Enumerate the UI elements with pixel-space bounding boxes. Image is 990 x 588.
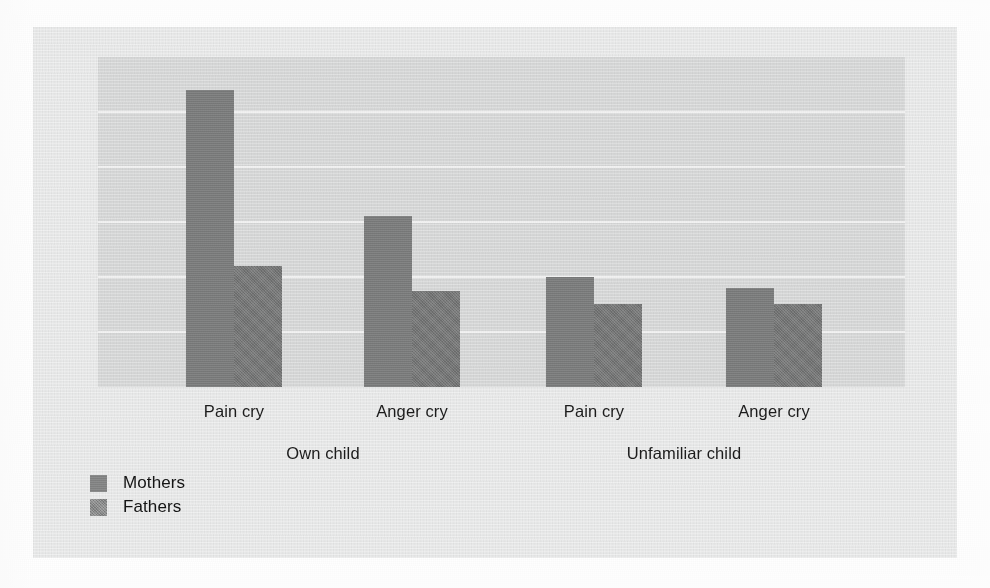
bar-fathers-2: [412, 291, 460, 387]
legend-label-mothers: Mothers: [123, 473, 185, 493]
bar-mothers-4: [726, 288, 774, 387]
legend-item-mothers[interactable]: Mothers: [90, 471, 185, 495]
scanned-page: Pain cryAnger cryPain cryAnger cry Own c…: [0, 0, 990, 588]
legend-label-fathers: Fathers: [123, 497, 181, 517]
group-label-2: Unfamiliar child: [574, 444, 794, 463]
plot-area: [98, 57, 905, 387]
bar-fathers-3: [594, 304, 642, 387]
legend-swatch-fathers-icon: [90, 499, 107, 516]
category-label-2: Anger cry: [322, 402, 502, 421]
category-label-1: Pain cry: [144, 402, 324, 421]
chart-legend: MothersFathers: [90, 471, 185, 519]
group-label-1: Own child: [213, 444, 433, 463]
bar-fathers-4: [774, 304, 822, 387]
legend-item-fathers[interactable]: Fathers: [90, 495, 185, 519]
bar-mothers-3: [546, 277, 594, 387]
bar-fathers-1: [234, 266, 282, 387]
category-label-4: Anger cry: [684, 402, 864, 421]
bar-mothers-1: [186, 90, 234, 387]
category-label-3: Pain cry: [504, 402, 684, 421]
bar-mothers-2: [364, 216, 412, 387]
bar-series-container: [98, 57, 905, 387]
legend-swatch-mothers-icon: [90, 475, 107, 492]
figure-card: Pain cryAnger cryPain cryAnger cry Own c…: [33, 27, 957, 558]
